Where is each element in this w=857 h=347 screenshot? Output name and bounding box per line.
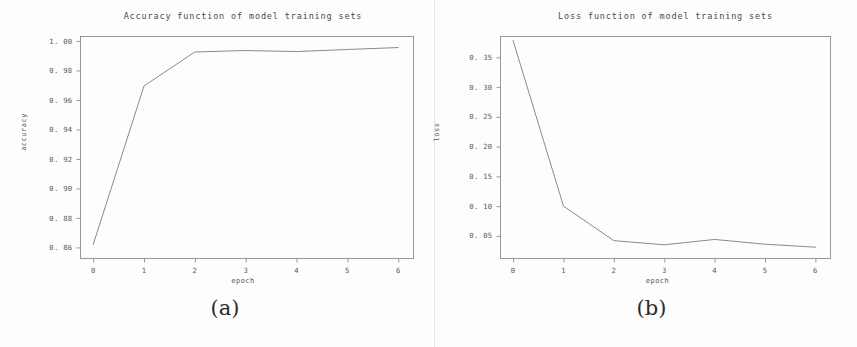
x-tick-label: 3 (243, 266, 248, 275)
x-axis-label-accuracy: epoch (0, 277, 458, 285)
x-tick-label: 4 (294, 266, 299, 275)
y-tick-label: 0. 92 (49, 155, 72, 164)
loss-data-line (513, 41, 815, 248)
subfigure-caption-a: (a) (0, 296, 440, 320)
y-tick-label: 0. 35 (469, 53, 492, 62)
x-tick-label: 2 (193, 266, 198, 275)
y-tick-label: 0. 20 (469, 142, 492, 151)
y-tick-label: 0. 15 (469, 172, 492, 181)
accuracy-data-line (93, 48, 398, 245)
figure-sheet: Accuracy function of model training sets… (0, 0, 857, 347)
loss-plot: 0. 050. 100. 150. 200. 250. 300. 35 0123… (430, 0, 857, 300)
y-tick-label: 0. 88 (49, 214, 72, 223)
y-tick-label: 0. 05 (469, 231, 492, 240)
plot-frame (81, 37, 414, 259)
x-tick-label: 3 (662, 266, 667, 275)
x-tick-label: 0 (91, 266, 96, 275)
y-axis-label-accuracy: accuracy (20, 113, 28, 151)
figure-panel-accuracy: Accuracy function of model training sets… (0, 0, 430, 347)
y-axis-label-loss: loss (433, 123, 441, 142)
y-tick-label: 0. 96 (49, 96, 72, 105)
x-tick-label: 1 (142, 266, 147, 275)
x-tick-label: 1 (561, 266, 566, 275)
y-tick-label: 0. 30 (469, 83, 492, 92)
x-tick-label: 5 (345, 266, 350, 275)
accuracy-plot: 0. 860. 880. 900. 920. 940. 960. 981. 00… (0, 0, 430, 300)
x-tick-label: 6 (396, 266, 401, 275)
y-tick-label: 0. 98 (49, 66, 72, 75)
plot-frame (501, 37, 831, 259)
x-tick-label: 2 (612, 266, 617, 275)
x-tick-label: 5 (763, 266, 768, 275)
y-tick-label: 0. 90 (49, 184, 72, 193)
x-tick-label: 0 (511, 266, 516, 275)
x-tick-label: 4 (712, 266, 717, 275)
y-tick-label: 1. 00 (49, 37, 72, 46)
subfigure-caption-b: (b) (430, 296, 857, 320)
y-tick-label: 0. 86 (49, 243, 72, 252)
x-axis-label-loss: epoch (430, 277, 857, 285)
x-tick-label: 6 (813, 266, 818, 275)
y-tick-label: 0. 10 (469, 202, 492, 211)
figure-panel-loss: Loss function of model training sets 0. … (430, 0, 857, 347)
y-tick-label: 0. 25 (469, 112, 492, 121)
y-tick-label: 0. 94 (49, 125, 72, 134)
